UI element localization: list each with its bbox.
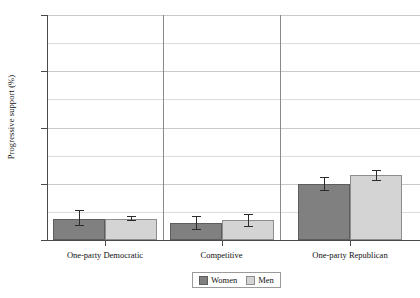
legend-swatch-women (199, 276, 208, 285)
legend: WomenMen (192, 272, 281, 288)
legend-label-women: Women (211, 275, 237, 285)
gridline-minor (47, 99, 420, 100)
error-bar-men-0 (131, 216, 132, 221)
gridline-minor (47, 156, 420, 157)
y-tick-0 (41, 240, 47, 241)
bar-chart: Progressive support (%) 020406080One-par… (0, 0, 420, 298)
y-axis-label: Progressive support (%) (6, 37, 16, 197)
gridline-major (47, 128, 420, 129)
x-axis-line (47, 240, 420, 241)
panel-separator-2 (280, 15, 281, 241)
x-tick-0 (105, 241, 106, 246)
y-axis-line (47, 15, 48, 241)
error-bar-women-0 (79, 210, 80, 225)
y-tick-60 (41, 71, 47, 72)
error-bar-men-1 (248, 214, 249, 228)
legend-item-men: Men (246, 275, 274, 285)
legend-item-women: Women (199, 275, 237, 285)
gridline-major (47, 71, 420, 72)
gridline-major (47, 15, 420, 16)
error-bar-women-2 (324, 177, 325, 191)
y-tick-80 (41, 15, 47, 16)
gridline-minor (47, 43, 420, 44)
x-tick-2 (350, 241, 351, 246)
error-bar-men-2 (376, 170, 377, 181)
plot-area (47, 15, 420, 240)
error-bar-women-1 (196, 216, 197, 230)
bar-men-2 (350, 175, 402, 240)
x-tick-1 (222, 241, 223, 246)
legend-swatch-men (246, 276, 255, 285)
x-category-label-2: One-party Republican (260, 250, 420, 260)
panel-separator-1 (163, 15, 164, 241)
legend-label-men: Men (258, 275, 274, 285)
bar-women-2 (298, 184, 350, 240)
bar-men-0 (105, 219, 157, 240)
y-tick-20 (41, 184, 47, 185)
y-tick-40 (41, 128, 47, 129)
